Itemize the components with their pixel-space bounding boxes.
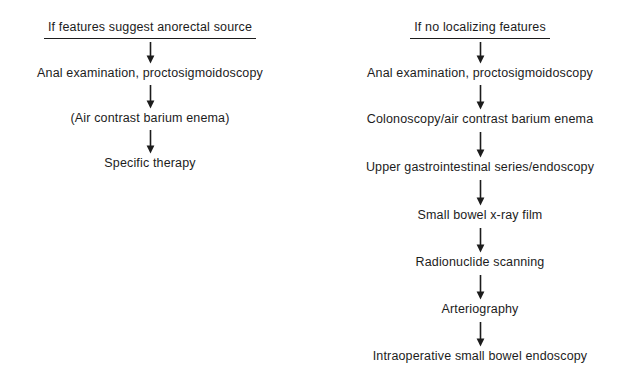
- flow-step: Intraoperative small bowel endoscopy: [373, 349, 588, 364]
- flow-step: Anal examination, proctosigmoidoscopy: [37, 66, 263, 81]
- arrow-down-icon: [145, 130, 156, 154]
- flow-step: Upper gastrointestinal series/endoscopy: [366, 160, 594, 175]
- arrow-down-icon: [475, 132, 486, 158]
- arrow-down-icon: [475, 228, 486, 253]
- flowchart-canvas: If features suggest anorectal source Ana…: [0, 0, 630, 368]
- flow-step: Colonoscopy/air contrast barium enema: [367, 112, 594, 127]
- flow-step: Arteriography: [442, 302, 519, 317]
- arrow-down-icon: [475, 322, 486, 347]
- flow-column-no-localizing-features: If no localizing features Anal examinati…: [330, 20, 630, 368]
- arrow-down-icon: [475, 275, 486, 300]
- flow-step: Radionuclide scanning: [416, 255, 545, 270]
- flow-step: Anal examination, proctosigmoidoscopy: [367, 66, 593, 81]
- flow-step: Specific therapy: [104, 156, 195, 171]
- arrow-down-icon: [475, 180, 486, 206]
- arrow-down-icon: [475, 42, 486, 64]
- flow-column-anorectal-source: If features suggest anorectal source Ana…: [0, 20, 300, 171]
- arrow-down-icon: [475, 85, 486, 110]
- arrow-down-icon: [145, 42, 156, 64]
- flow-column-header: If no localizing features: [410, 20, 550, 39]
- flow-column-header: If features suggest anorectal source: [44, 20, 256, 39]
- flow-step: (Air contrast barium enema): [71, 111, 230, 126]
- flow-step: Small bowel x-ray film: [418, 208, 543, 223]
- arrow-down-icon: [145, 85, 156, 109]
